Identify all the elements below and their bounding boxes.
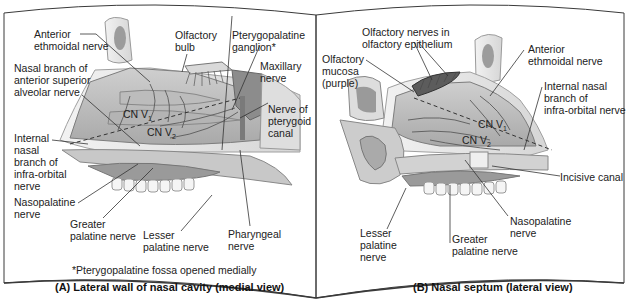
label-cn-v1-a: CN V1 [123,108,152,122]
label-anterior-ethmoidal-nerve-b: Anterior ethmoidal nerve [528,43,603,67]
label-olfactory-nerves-epithelium: Olfactory nerves in olfactory epithelium [362,26,452,50]
label-olfactory-mucosa: Olfactory mucosa (purple) [322,53,364,89]
label-olfactory-bulb: Olfactory bulb [175,29,217,53]
label-cn-v2-a: CN V2 [147,126,176,140]
caption-panel-a: (A) Lateral wall of nasal cavity (medial… [55,281,284,293]
label-lesser-palatine-nerve-b: Lesser palatine nerve [360,227,397,263]
label-nasopalatine-nerve-b: Nasopalatine nerve [510,215,571,239]
label-cn-v2-b: CN V2 [462,134,491,148]
label-greater-palatine-nerve-a: Greater palatine nerve [70,218,136,242]
label-maxillary-nerve: Maxillary nerve [260,60,301,84]
caption-panel-b: (B) Nasal septum (lateral view) [413,281,573,293]
label-pharyngeal-nerve: Pharyngeal nerve [228,228,281,252]
footnote-pterygopalatine-fossa: *Pterygopalatine fossa opened medially [72,264,256,276]
label-anterior-ethmoidal-nerve-a: Anterior ethmoidal nerve [34,28,109,52]
label-internal-nasal-branch-a: Internal nasal branch of infra-orbital n… [14,132,67,192]
label-nerve-of-pterygoid-canal: Nerve of pterygoid canal [268,103,311,139]
label-cn-v1-b: CN V1 [478,118,507,132]
label-nasopalatine-nerve-a: Nasopalatine nerve [14,196,75,220]
label-greater-palatine-nerve-b: Greater palatine nerve [452,233,518,257]
figure-nasal-cavity-innervation: Anterior ethmoidal nerve Nasal branch of… [0,0,632,308]
panel-b-anatomy [340,34,552,195]
label-nasal-branch-asa-nerve: Nasal branch of anterior superior alveol… [14,62,90,98]
label-lesser-palatine-nerve-a: Lesser palatine nerve [143,229,209,253]
label-internal-nasal-branch-b: Internal nasal branch of infra-orbital n… [544,80,626,116]
label-pterygopalatine-ganglion: Pterygopalatine ganglion* [232,29,305,53]
label-incisive-canal: Incisive canal [560,171,623,183]
